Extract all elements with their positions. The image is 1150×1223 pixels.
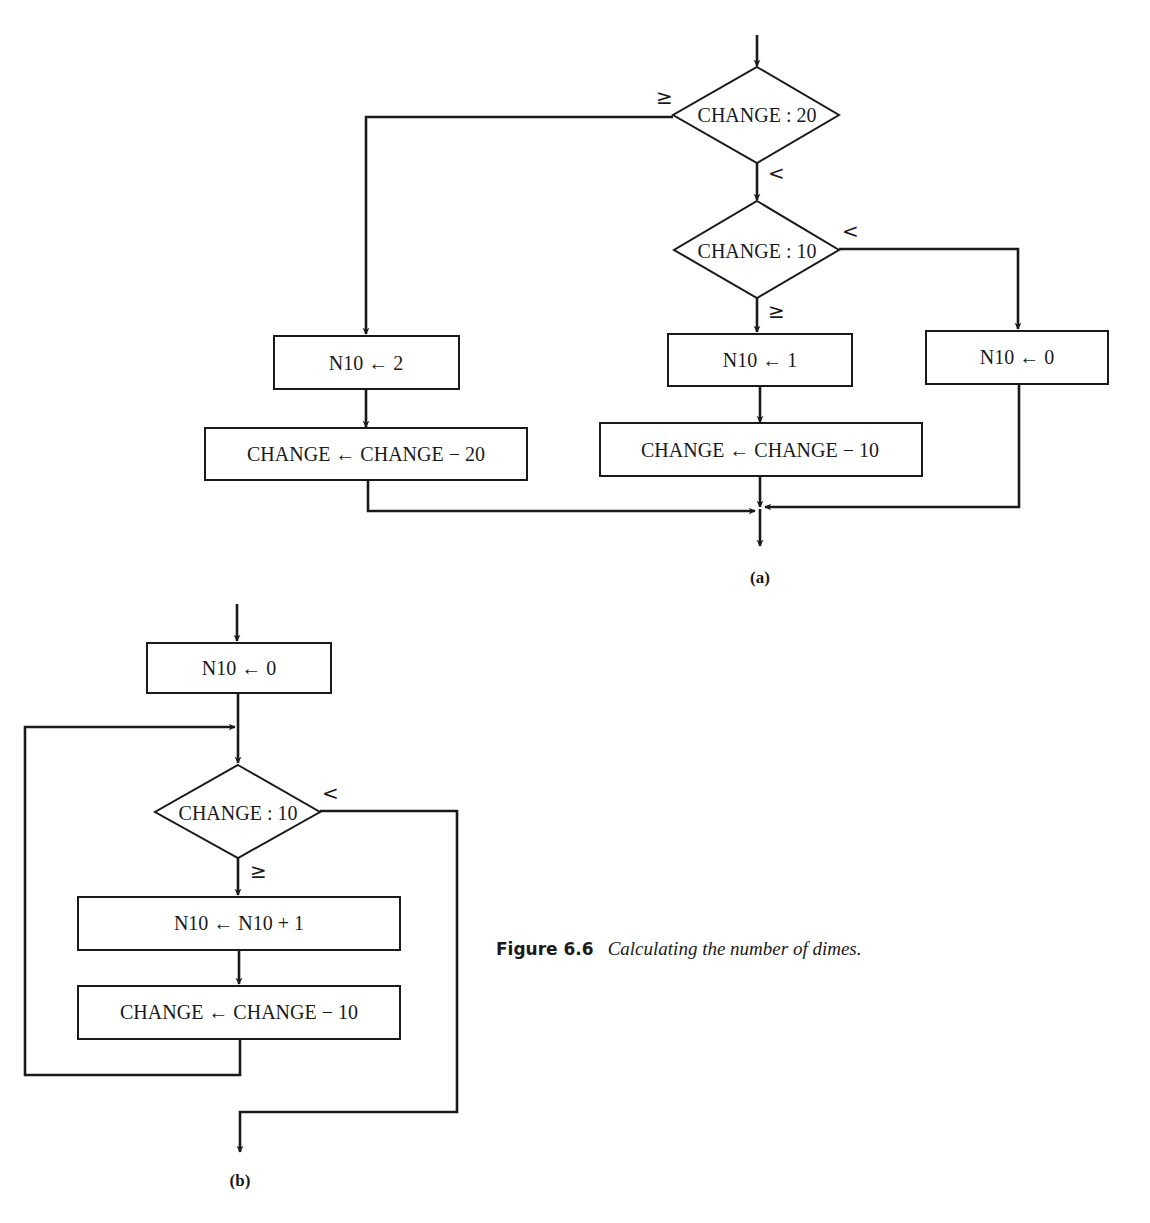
diagram-b-label: (b) [230, 1171, 251, 1190]
exit-connector-b [240, 811, 457, 1152]
diagram-a-label: (a) [750, 568, 770, 587]
box-n10-1-text: N10 ← 1 [723, 349, 797, 371]
box-n10-0-b-text: N10 ← 0 [202, 657, 276, 679]
box-n10-0-b: N10 ← 0 [147, 643, 331, 693]
figure-title: Calculating the number of dimes. [608, 938, 862, 959]
box-n10-increment: N10 ← N10 + 1 [78, 897, 400, 950]
branch-lt-label: < [842, 219, 859, 243]
figure-number: Figure 6.6 [496, 939, 594, 959]
decision-change-20: CHANGE : 20 [673, 67, 839, 163]
decision-change-10-a: CHANGE : 10 [674, 201, 839, 298]
connector-merge-left [368, 480, 755, 511]
branch-lt-label: < [322, 781, 339, 805]
box-n10-0-a: N10 ← 0 [926, 331, 1108, 384]
box-change-minus-20: CHANGE ← CHANGE − 20 [205, 428, 527, 480]
box-n10-increment-text: N10 ← N10 + 1 [174, 912, 304, 934]
flowchart-b: N10 ← 0 CHANGE : 10 < ≥ N10 ← N10 + 1 CH… [25, 604, 457, 1190]
box-change-minus-10-b: CHANGE ← CHANGE − 10 [78, 986, 400, 1039]
box-n10-0-a-text: N10 ← 0 [980, 346, 1054, 368]
flowchart-a: CHANGE : 20 ≥ < CHANGE : 10 < ≥ N10 ← 2 … [205, 35, 1108, 587]
box-n10-1: N10 ← 1 [668, 334, 852, 386]
decision-change-10-b-text: CHANGE : 10 [179, 802, 298, 824]
branch-ge-label: ≥ [656, 85, 673, 109]
box-change-minus-20-text: CHANGE ← CHANGE − 20 [247, 443, 485, 465]
connector-lt-10 [839, 249, 1018, 329]
box-n10-2: N10 ← 2 [274, 336, 459, 389]
decision-change-10-b: CHANGE : 10 [155, 765, 320, 858]
connector-ge-20 [366, 117, 673, 334]
figure-caption: Figure 6.6Calculating the number of dime… [496, 938, 862, 960]
branch-ge-label: ≥ [250, 859, 267, 883]
box-n10-2-text: N10 ← 2 [329, 352, 403, 374]
flowchart-canvas: CHANGE : 20 ≥ < CHANGE : 10 < ≥ N10 ← 2 … [0, 0, 1150, 1223]
decision-change-10-a-text: CHANGE : 10 [698, 240, 817, 262]
box-change-minus-10-b-text: CHANGE ← CHANGE − 10 [120, 1001, 358, 1023]
branch-lt-label: < [768, 161, 785, 185]
box-change-minus-10-a: CHANGE ← CHANGE − 10 [600, 423, 922, 476]
box-change-minus-10-a-text: CHANGE ← CHANGE − 10 [641, 439, 879, 461]
branch-ge-label: ≥ [768, 299, 785, 323]
decision-change-20-text: CHANGE : 20 [698, 104, 817, 126]
